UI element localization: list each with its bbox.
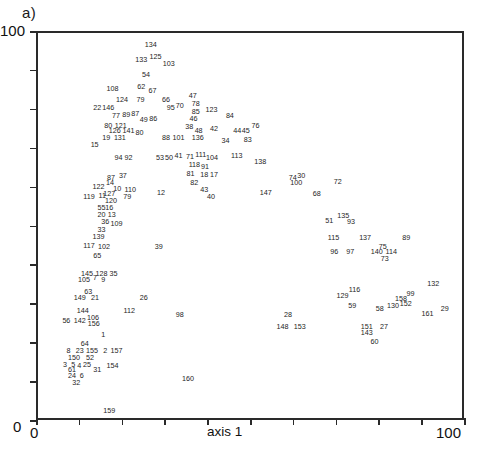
data-point-label: 159	[103, 407, 115, 414]
data-point-label: 108	[107, 85, 119, 92]
data-point-label: 18	[200, 171, 208, 178]
data-point-label: 109	[110, 220, 122, 227]
data-point-label: 4	[77, 362, 81, 369]
data-point-label: 96	[330, 248, 338, 255]
data-point-label: 160	[182, 376, 194, 383]
data-point-label: 99	[407, 291, 415, 298]
data-point-label: 118	[189, 161, 200, 168]
data-point-label: 143	[361, 330, 373, 337]
data-point-label: 152	[400, 301, 412, 308]
data-point-label: 44	[233, 128, 241, 135]
data-point-label: 68	[313, 190, 321, 197]
data-point-label: 87	[131, 111, 139, 118]
data-point-label: 112	[124, 307, 135, 314]
data-point-label: 115	[328, 234, 339, 241]
data-point-label: 157	[110, 348, 122, 355]
data-point-label: 79	[123, 193, 131, 200]
data-point-label: 138	[254, 159, 266, 166]
data-point-label: 84	[226, 113, 234, 120]
data-point-label: 15	[91, 142, 99, 149]
data-point-label: 77	[112, 113, 120, 120]
data-point-label: 81	[187, 170, 195, 177]
data-point-label: 6	[80, 372, 84, 379]
data-point-label: 124	[116, 96, 128, 103]
data-point-label: 46	[190, 116, 198, 123]
data-point-label: 113	[231, 153, 242, 160]
data-point-label: 161	[422, 311, 434, 318]
data-point-label: 156	[88, 321, 100, 328]
data-point-label: 12	[157, 189, 165, 196]
data-point-label: 1	[101, 332, 105, 339]
data-point-label: 21	[91, 295, 99, 302]
data-point-label: 67	[148, 87, 156, 94]
data-point-label: 101	[173, 135, 185, 142]
data-point-label: 82	[190, 179, 198, 186]
data-point-label: 58	[376, 306, 384, 313]
data-point-label: 50	[165, 155, 173, 162]
data-point-label: 42	[210, 126, 218, 133]
data-point-label: 117	[83, 242, 94, 249]
data-point-label: 32	[72, 379, 80, 386]
data-point-label: 92	[124, 155, 132, 162]
data-point-label: 103	[163, 60, 175, 67]
data-point-label: 133	[135, 56, 147, 63]
data-point-label: 131	[114, 135, 126, 142]
data-point-label: 70	[176, 102, 184, 109]
data-point-label: 36	[101, 218, 109, 225]
data-point-label: 22	[93, 104, 101, 111]
data-point-label: 147	[260, 189, 272, 196]
data-point-label: 146	[102, 104, 114, 111]
data-point-label: 137	[359, 234, 371, 241]
data-point-label: 104	[206, 155, 218, 162]
data-point-label: 76	[252, 122, 260, 129]
data-point-label: 26	[140, 295, 148, 302]
data-point-label: 105	[78, 276, 90, 283]
data-point-label: 3	[63, 362, 67, 369]
data-point-label: 153	[294, 324, 306, 331]
data-point-label: 154	[107, 362, 119, 369]
data-point-label: 83	[244, 137, 252, 144]
data-point-label: 27	[380, 324, 388, 331]
data-point-label: 136	[192, 135, 204, 142]
data-point-label: 125	[149, 53, 161, 60]
data-point-label: 86	[149, 116, 157, 123]
data-point-label: 41	[175, 153, 183, 160]
data-point-label: 78	[192, 100, 200, 107]
data-point-label: 89	[402, 234, 410, 241]
data-point-label: 37	[119, 173, 127, 180]
data-point-label: 49	[140, 117, 148, 124]
data-point-labels: 1341331251035410862671247966477822146957…	[0, 0, 479, 450]
data-point-label: 39	[155, 243, 163, 250]
data-point-label: 66	[162, 96, 170, 103]
data-point-label: 94	[115, 155, 123, 162]
data-point-label: 34	[222, 138, 230, 145]
data-point-label: 116	[349, 287, 360, 294]
data-point-label: 29	[441, 306, 449, 313]
data-point-label: 7	[93, 275, 97, 282]
data-point-label: 35	[109, 270, 117, 277]
data-point-label: 88	[162, 135, 170, 142]
data-point-label: 123	[205, 106, 217, 113]
data-point-label: 17	[210, 171, 218, 178]
data-point-label: 60	[371, 339, 379, 346]
data-point-label: 111	[195, 151, 206, 158]
data-point-label: 132	[427, 281, 439, 288]
data-point-label: 31	[93, 367, 101, 374]
data-point-label: 102	[98, 243, 110, 250]
data-point-label: 59	[348, 303, 356, 310]
data-point-label: 38	[185, 124, 193, 131]
data-point-label: 119	[83, 193, 94, 200]
data-point-label: 93	[347, 218, 355, 225]
data-point-label: 62	[137, 83, 145, 90]
data-point-label: 56	[62, 318, 70, 325]
data-point-label: 97	[346, 248, 354, 255]
data-point-label: 73	[381, 255, 389, 262]
data-point-label: 25	[83, 362, 91, 369]
data-point-label: 95	[167, 104, 175, 111]
data-point-label: 98	[176, 312, 184, 319]
data-point-label: 9	[101, 277, 105, 284]
data-point-label: 79	[136, 96, 144, 103]
data-point-label: 40	[207, 193, 215, 200]
data-point-label: 53	[156, 155, 164, 162]
data-point-label: 89	[122, 111, 130, 118]
